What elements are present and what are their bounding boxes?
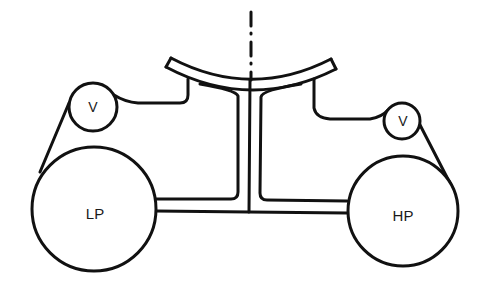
- left-v-label: V: [88, 99, 98, 115]
- diagram-canvas: V V LP HP: [0, 0, 488, 301]
- left-upper-duct: [114, 79, 188, 103]
- right-upper-duct: [314, 79, 388, 119]
- right-v-label: V: [398, 113, 408, 129]
- bottom-crossbar: [156, 211, 347, 213]
- left-duct-inner: [156, 84, 238, 199]
- right-duct-inner: [260, 84, 347, 201]
- hp-label: HP: [393, 207, 414, 224]
- lp-label: LP: [86, 205, 104, 222]
- central-stem: [249, 80, 250, 212]
